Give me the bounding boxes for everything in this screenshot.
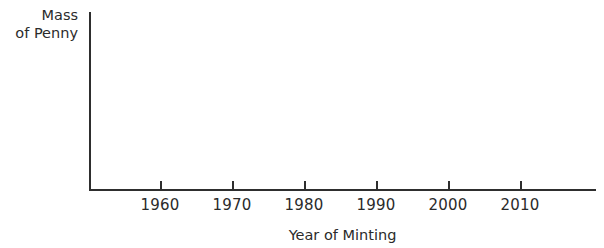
x-axis-tick-label: 2010: [480, 196, 560, 214]
y-axis-label-line-2: of Penny: [0, 24, 78, 42]
x-axis-tick-1970: [232, 181, 234, 190]
chart-figure: Mass of Penny 1960 1970 1980 1990 2000 2…: [0, 0, 604, 248]
plot-area: [91, 12, 596, 189]
x-axis-tick-1960: [160, 181, 162, 190]
x-axis-tick-label: 1980: [264, 196, 344, 214]
x-axis-tick-1980: [304, 181, 306, 190]
x-axis-tick-2010: [520, 181, 522, 190]
x-axis-tick-1990: [376, 181, 378, 190]
x-axis-tick-2000: [448, 181, 450, 190]
x-axis-tick-label: 1990: [336, 196, 416, 214]
y-axis-label-line-1: Mass: [0, 6, 78, 24]
x-axis-tick-label: 1970: [192, 196, 272, 214]
x-axis-label: Year of Minting: [89, 226, 596, 244]
y-axis-label: Mass of Penny: [0, 6, 78, 42]
x-axis-tick-label: 1960: [120, 196, 200, 214]
x-axis-tick-label: 2000: [408, 196, 488, 214]
